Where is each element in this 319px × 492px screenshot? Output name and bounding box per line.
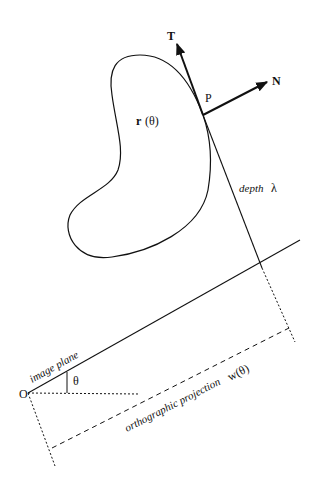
tangent-label: T	[167, 29, 175, 43]
normal-label: N	[272, 74, 281, 88]
r-arg-label: (θ)	[145, 114, 159, 128]
r-label: r	[136, 114, 142, 128]
projection-label: orthographic projection	[122, 375, 222, 434]
normal-arrow	[203, 82, 267, 115]
image-plane-line	[28, 240, 300, 393]
origin-label: O	[19, 387, 28, 401]
theta-label: θ	[73, 374, 79, 388]
horizontal-reference	[28, 393, 140, 394]
projection-symbol: w(θ)	[225, 361, 251, 384]
projection-measure	[52, 328, 289, 448]
origin-perpendicular	[28, 393, 55, 466]
depth-symbol: λ	[271, 181, 277, 195]
depth-label: depth	[239, 182, 264, 194]
tangent-arrow	[177, 44, 203, 115]
object-contour	[68, 55, 211, 258]
point-label: P	[205, 91, 212, 105]
orthographic-projection-diagram: T N P r (θ) depth λ image plane θ O orth…	[0, 0, 319, 492]
depth-extension	[262, 268, 295, 342]
